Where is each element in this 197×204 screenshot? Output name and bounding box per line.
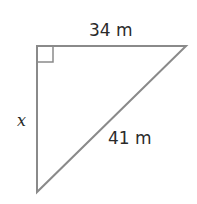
top-side-label: 34 m	[89, 20, 133, 40]
left-side-label: x	[17, 111, 26, 130]
right-triangle	[37, 46, 186, 192]
right-angle-marker	[37, 46, 53, 62]
triangle-diagram: 34 m x 41 m	[0, 0, 197, 204]
hypotenuse-label: 41 m	[108, 128, 152, 148]
